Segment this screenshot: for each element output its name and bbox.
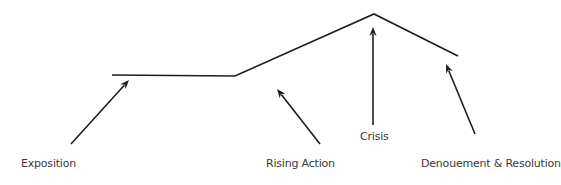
arrow-shaft	[71, 85, 124, 144]
plot-line	[112, 14, 458, 76]
label-denouement-resolution: Denouement & Resolution	[421, 158, 561, 169]
arrow-shaft	[281, 95, 320, 144]
denouement-arrow	[446, 64, 475, 134]
arrow-shaft	[449, 70, 475, 134]
label-crisis: Crisis	[360, 131, 389, 142]
crisis-arrow	[369, 27, 376, 125]
rising-action-arrow	[277, 89, 320, 144]
arrows-group	[71, 27, 475, 144]
exposition-arrow	[71, 80, 129, 144]
label-rising-action: Rising Action	[266, 158, 335, 169]
label-exposition: Exposition	[21, 158, 76, 169]
